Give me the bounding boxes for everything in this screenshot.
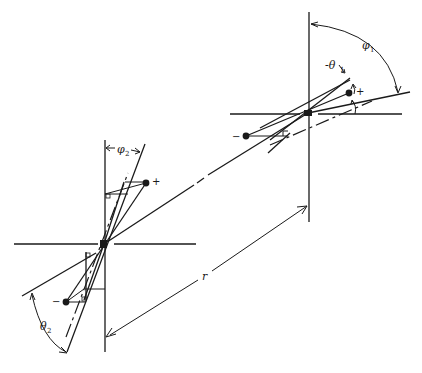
phi1-arrowhead-bottom [395, 86, 401, 93]
plus-charge-1 [346, 90, 353, 97]
dipole-2: + − φ 2 θ 2 [14, 140, 196, 353]
plus-charge-2 [143, 180, 150, 187]
minus-sign-1: − [232, 131, 240, 142]
dashed-line-1 [270, 101, 372, 145]
svg-text:2: 2 [47, 327, 51, 335]
theta1-label: -θ [325, 59, 336, 72]
phi2-label: φ [117, 143, 125, 156]
svg-text:1: 1 [370, 46, 374, 54]
plus-sign-2: + [152, 176, 160, 187]
minus-sign-2: − [52, 296, 60, 307]
svg-text:1: 1 [340, 66, 344, 74]
theta2-arc [32, 295, 66, 352]
minus-charge-2 [63, 299, 70, 306]
connecting-line [104, 113, 308, 244]
svg-text:2: 2 [125, 150, 129, 158]
minus-charge-1 [243, 133, 250, 140]
diagram-canvas: + − φ 1 -θ 1 [0, 0, 422, 373]
plus-sign-1: + [356, 86, 364, 97]
upper-ray-1 [260, 80, 350, 128]
r-label: r [202, 270, 208, 283]
origin-2 [100, 240, 107, 248]
dipole-diagram: + − φ 1 -θ 1 [0, 0, 422, 373]
dipole-1: + − φ 1 -θ 1 [230, 12, 410, 222]
phi1-label: φ [362, 39, 370, 52]
distance-r-arrow: r [106, 206, 307, 337]
phi1-arc [311, 24, 398, 92]
theta2-label: θ [40, 320, 47, 333]
theta1-reference-line [270, 78, 350, 140]
